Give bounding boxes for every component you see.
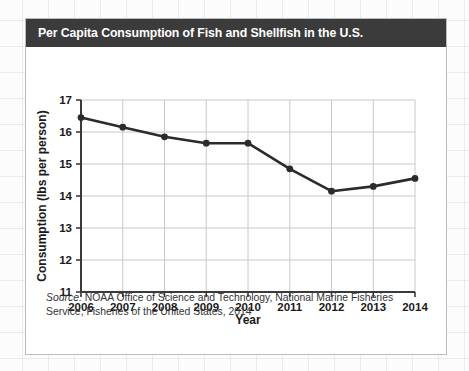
data-point [286,165,293,172]
data-point [203,140,210,147]
chart-card: Per Capita Consumption of Fish and Shell… [25,18,447,355]
y-axis-title: Consumption (lbs per person) [35,110,49,281]
page-title: Per Capita Consumption of Fish and Shell… [38,26,363,40]
data-point [119,124,126,131]
source-text: NOAA Office of Science and Technology, N… [46,292,393,317]
data-point [161,133,168,140]
data-point [412,175,419,182]
y-axis-ticks: 11121314151617 [59,94,81,298]
data-point [328,188,335,195]
chart-title-bar: Per Capita Consumption of Fish and Shell… [26,19,446,47]
data-point [245,140,252,147]
y-tick-label: 15 [59,158,72,170]
data-point [370,183,377,190]
y-tick-label: 12 [59,254,72,266]
source-label: Source: [46,292,82,303]
y-tick-label: 17 [59,94,72,106]
y-tick-label: 16 [59,126,72,138]
y-tick-label: 14 [59,190,72,202]
source-note: Source: NOAA Office of Science and Techn… [46,291,428,318]
data-point [78,114,85,121]
y-tick-label: 13 [59,222,72,234]
